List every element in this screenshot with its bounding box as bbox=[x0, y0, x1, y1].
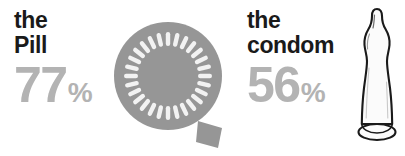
pill-percent: 77 % bbox=[14, 60, 119, 110]
pill-percent-value: 77 bbox=[14, 60, 67, 110]
condom-illustration bbox=[352, 6, 402, 152]
stat-group-pill: the Pill 77 % bbox=[14, 0, 119, 156]
pill-label-line-1: the bbox=[14, 8, 119, 33]
condom-label-line-2: condom bbox=[247, 33, 357, 58]
pill-pack-icon bbox=[114, 22, 222, 148]
pill-label-line-2: Pill bbox=[14, 33, 119, 58]
condom-percent-sign: % bbox=[301, 79, 326, 107]
contraceptive-effectiveness-infographic: the Pill 77 % the condom 56 % bbox=[0, 0, 405, 156]
condom-icon bbox=[359, 9, 396, 140]
condom-percent: 56 % bbox=[247, 60, 357, 110]
condom-label-line-1: the bbox=[247, 8, 357, 33]
pill-pack-illustration bbox=[110, 18, 235, 150]
condom-percent-value: 56 bbox=[247, 60, 300, 110]
stat-group-condom: the condom 56 % bbox=[247, 0, 357, 156]
pill-percent-sign: % bbox=[68, 79, 93, 107]
